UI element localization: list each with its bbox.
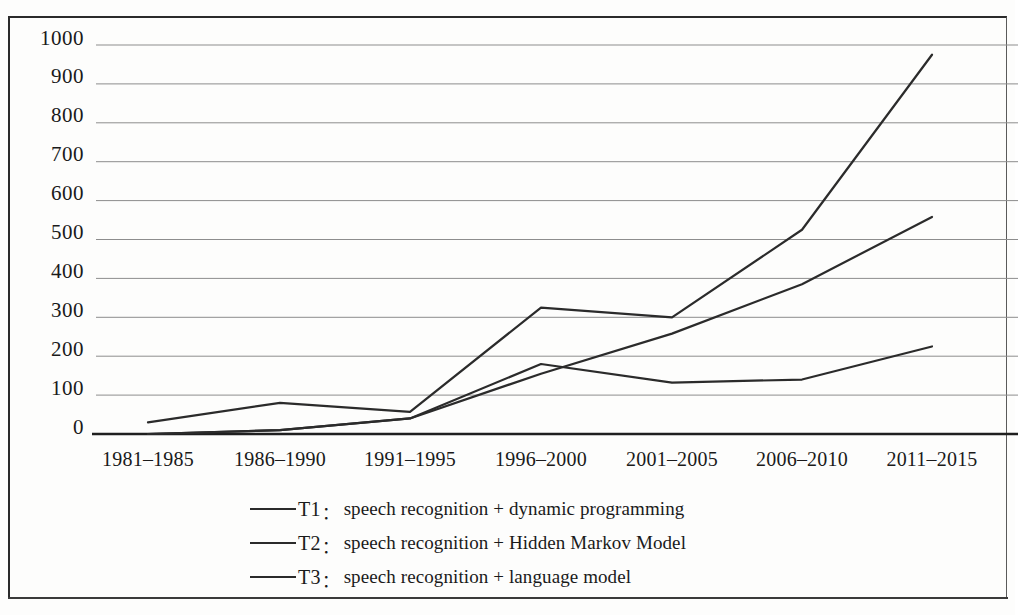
x-axis-tick-labels: 1981–1985 1986–1990 1991–1995 1996–2000 … xyxy=(0,448,1015,480)
x-tick-2011-2015: 2011–2015 xyxy=(886,448,977,470)
y-tick-200: 200 xyxy=(51,339,84,360)
series-line-t1 xyxy=(148,346,932,434)
y-tick-500: 500 xyxy=(51,222,84,243)
y-tick-100: 100 xyxy=(51,378,84,399)
legend-item-t3: T3 ： speech recognition + language model xyxy=(250,560,870,594)
legend-line-swatch-t3 xyxy=(250,576,296,578)
legend-key-t3: T3 xyxy=(298,566,321,589)
y-tick-1000: 1000 xyxy=(40,28,84,49)
y-tick-800: 800 xyxy=(51,105,84,126)
y-tick-300: 300 xyxy=(51,300,84,321)
y-tick-700: 700 xyxy=(51,144,84,165)
x-tick-2006-2010: 2006–2010 xyxy=(756,448,848,470)
x-tick-2001-2005: 2001–2005 xyxy=(626,448,718,470)
legend-line-swatch-t2 xyxy=(250,542,296,544)
legend-line-swatch-t1 xyxy=(250,508,296,510)
legend-item-t2: T2 ： speech recognition + Hidden Markov … xyxy=(250,526,870,560)
x-tick-1986-1990: 1986–1990 xyxy=(234,448,326,470)
y-tick-0: 0 xyxy=(73,417,84,438)
plot-area xyxy=(90,40,1020,440)
legend-separator-t2: ： xyxy=(321,533,344,558)
y-tick-600: 600 xyxy=(51,183,84,204)
chart-legend: T1 ： speech recognition + dynamic progra… xyxy=(250,492,870,594)
series-lines xyxy=(148,55,932,434)
series-line-t2 xyxy=(148,55,932,423)
series-line-t3 xyxy=(148,217,932,434)
y-tick-400: 400 xyxy=(51,261,84,282)
legend-label-t3: speech recognition + language model xyxy=(344,566,632,588)
plot-svg xyxy=(90,40,1020,440)
legend-item-t1: T1 ： speech recognition + dynamic progra… xyxy=(250,492,870,526)
x-tick-1996-2000: 1996–2000 xyxy=(495,448,587,470)
legend-key-t2: T2 xyxy=(298,532,321,555)
y-axis-tick-labels: 1000 900 800 700 600 500 400 300 200 100… xyxy=(18,28,84,448)
legend-label-t1: speech recognition + dynamic programming xyxy=(344,498,685,520)
legend-separator-t3: ： xyxy=(321,567,344,592)
figure-bottom-rule xyxy=(8,597,1008,599)
legend-label-t2: speech recognition + Hidden Markov Model xyxy=(344,532,686,554)
legend-key-t1: T1 xyxy=(298,498,321,521)
gridlines xyxy=(96,45,1018,434)
x-tick-1981-1985: 1981–1985 xyxy=(102,448,194,470)
y-tick-900: 900 xyxy=(51,66,84,87)
legend-separator-t1: ： xyxy=(321,499,344,524)
x-tick-1991-1995: 1991–1995 xyxy=(364,448,456,470)
